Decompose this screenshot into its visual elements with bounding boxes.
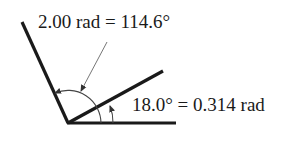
large-angle-label: 2.00 rad = 114.6° [38,12,170,31]
angle-diagram: 2.00 rad = 114.6° 18.0° = 0.314 rad [0,0,298,142]
small-angle-label: 18.0° = 0.314 rad [132,95,265,114]
ray-left [22,22,68,123]
small-angle-arc [110,106,113,123]
leader-line [81,42,107,91]
